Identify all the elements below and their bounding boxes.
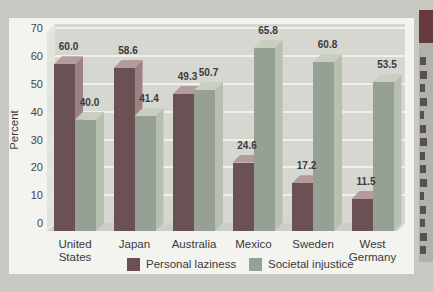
bar-front-societal-injustice-6 — [373, 82, 394, 231]
tick-label-10: 10 — [11, 189, 43, 201]
value-label-societal-injustice-5: 60.8 — [306, 39, 350, 51]
bar-front-personal-laziness-4 — [233, 163, 254, 231]
sidebar-text-fragment-2 — [420, 71, 427, 79]
bar-front-societal-injustice-3 — [194, 90, 215, 231]
legend-label-societal-injustice: Societal injustice — [268, 258, 354, 271]
cropped-sidebar-column — [419, 10, 433, 262]
legend-swatch-personal-laziness — [127, 258, 140, 271]
value-label-personal-laziness-6: 11.5 — [344, 176, 388, 188]
sidebar-text-fragment-5 — [420, 111, 424, 119]
bar-side-societal-injustice-3 — [215, 82, 223, 231]
sidebar-text-fragment-13 — [420, 219, 425, 227]
value-label-personal-laziness-1: 60.0 — [47, 41, 91, 53]
gridline-20 — [55, 166, 405, 168]
gridline-50 — [55, 83, 405, 85]
tick-label-50: 50 — [11, 78, 43, 90]
tick-label-60: 60 — [11, 50, 43, 62]
value-label-personal-laziness-2: 58.6 — [106, 45, 150, 57]
value-label-societal-injustice-2: 41.4 — [127, 93, 171, 105]
bar-side-societal-injustice-4 — [275, 40, 283, 231]
value-label-societal-injustice-1: 40.0 — [68, 97, 112, 109]
tick-label-40: 40 — [11, 106, 43, 118]
value-label-societal-injustice-4: 65.8 — [246, 25, 290, 37]
bar-front-personal-laziness-5 — [292, 183, 313, 231]
sidebar-text-fragment-15 — [420, 246, 426, 254]
sidebar-text-fragment-9 — [420, 165, 426, 173]
value-label-personal-laziness-5: 17.2 — [285, 160, 329, 172]
bar-side-societal-injustice-5 — [334, 54, 342, 231]
bar-side-societal-injustice-6 — [394, 74, 402, 231]
tick-label-20: 20 — [11, 161, 43, 173]
legend-swatch-societal-injustice — [249, 258, 262, 271]
sidebar-text-fragment-10 — [420, 179, 427, 187]
bar-front-societal-injustice-2 — [135, 116, 156, 231]
tick-label-30: 30 — [11, 134, 43, 146]
sidebar-text-fragment-4 — [420, 98, 427, 106]
value-label-societal-injustice-3: 50.7 — [187, 67, 231, 79]
legend-label-personal-laziness: Personal laziness — [146, 258, 236, 271]
bar-side-societal-injustice-1 — [96, 112, 104, 231]
sidebar-text-fragment-6 — [420, 125, 426, 133]
bar-side-societal-injustice-2 — [156, 108, 164, 231]
gridline-40 — [55, 111, 405, 113]
sidebar-text-fragment-7 — [420, 138, 427, 146]
tick-label-70: 70 — [11, 22, 43, 34]
sidebar-header-block — [419, 10, 433, 43]
gridline-70 — [55, 27, 405, 29]
sidebar-text-fragment-3 — [420, 84, 425, 92]
sidebar-text-fragment-8 — [420, 152, 425, 160]
bar-front-societal-injustice-1 — [75, 120, 96, 231]
sidebar-text-fragment-12 — [420, 206, 426, 214]
page-background: { "chart_data": { "type": "bar", "title"… — [0, 0, 433, 292]
value-label-personal-laziness-4: 24.6 — [225, 140, 269, 152]
chart-panel: Percent 010203040506070 60.040.058.641.4… — [9, 18, 414, 274]
sidebar-text-fragment-11 — [420, 192, 424, 200]
tick-label-0: 0 — [11, 217, 43, 229]
bar-front-personal-laziness-6 — [352, 199, 373, 231]
value-label-societal-injustice-6: 53.5 — [365, 59, 409, 71]
bar-front-societal-injustice-5 — [313, 62, 334, 231]
bar-front-personal-laziness-1 — [54, 64, 75, 231]
sidebar-text-fragment-14 — [420, 233, 427, 241]
sidebar-text-fragment-1 — [420, 57, 426, 65]
gridline-10 — [55, 194, 405, 196]
bar-front-personal-laziness-3 — [173, 94, 194, 231]
